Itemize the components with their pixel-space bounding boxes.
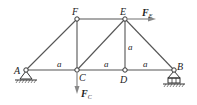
joint-A [24,68,28,72]
joint-E [123,17,127,21]
truss-members [26,19,174,70]
node-label-B: B [177,61,183,72]
roller-support-B [163,71,185,87]
truss-diagram: A C D B F E a a a a FE FC [0,0,197,105]
force-label-FC: FC [80,88,93,100]
force-label-FE: FE [141,7,153,19]
joint-B [172,68,176,72]
node-label-E: E [119,6,126,17]
node-label-A: A [13,65,21,76]
truss-svg: A C D B F E a a a a FE FC [0,0,197,105]
member-CE [77,19,125,70]
dimension-label-ED: a [128,42,133,52]
node-label-F: F [71,6,79,17]
joint-D [123,68,127,72]
dimension-label-DB: a [143,59,148,69]
node-label-C: C [79,72,86,83]
dimension-label-AC: a [57,59,62,69]
node-label-D: D [119,74,128,85]
dimension-label-CD: a [104,59,109,69]
truss-joints [24,17,176,72]
joint-F [75,17,79,21]
member-AF [26,19,77,70]
